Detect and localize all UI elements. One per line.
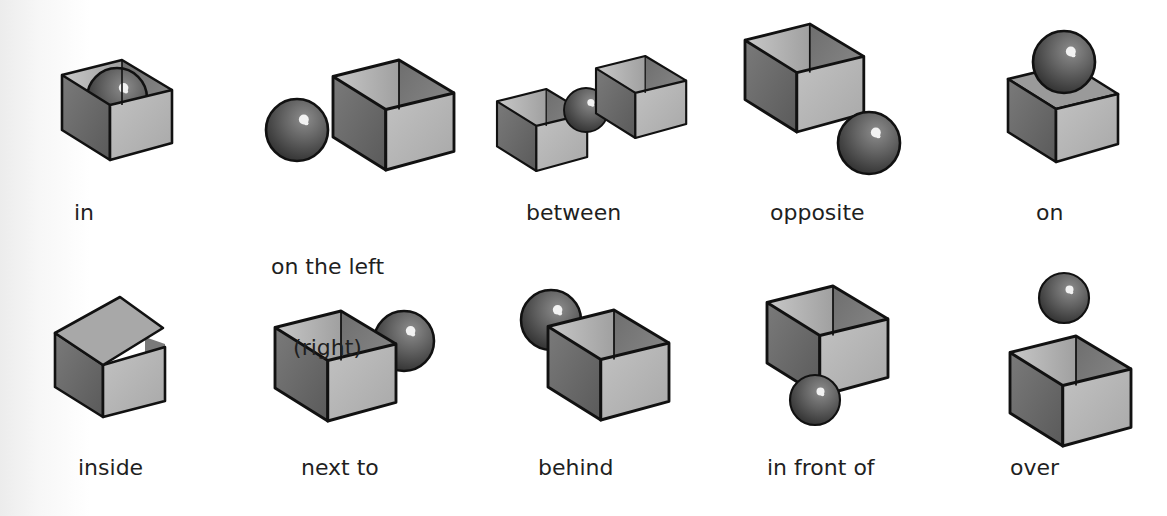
illustration-behind [521, 290, 669, 420]
ball-icon [1033, 31, 1095, 93]
illustration-opposite [745, 24, 900, 174]
label-on: on [1036, 199, 1063, 226]
ball-icon [790, 375, 840, 425]
ball-icon [838, 112, 900, 174]
label-next-to: next to [301, 454, 379, 481]
label-in-front-of: in front of [767, 454, 875, 481]
illustration-on [1008, 31, 1118, 162]
label-in: in [74, 199, 94, 226]
label-opposite: opposite [770, 199, 865, 226]
illustration-between [497, 56, 686, 171]
ball-icon [266, 99, 328, 161]
label-between: between [526, 199, 621, 226]
illustration-on-the-left [266, 60, 454, 170]
label-on-the-left-sub: (right) [270, 334, 385, 361]
label-inside: inside [78, 454, 143, 481]
preposition-figure: in on the left (right) between opposite … [0, 0, 1167, 516]
illustration-inside [55, 297, 165, 417]
illustration-over [1010, 273, 1131, 446]
ball-icon [1039, 273, 1089, 323]
label-on-the-left-main: on the left [270, 253, 385, 280]
illustrations-canvas [0, 0, 1167, 516]
label-on-the-left: on the left (right) [270, 199, 385, 415]
illustration-in-front-of [767, 286, 888, 425]
illustration-in [62, 60, 172, 160]
label-behind: behind [538, 454, 613, 481]
label-over: over [1010, 454, 1059, 481]
